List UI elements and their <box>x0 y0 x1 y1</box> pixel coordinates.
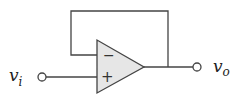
noninverting-input-symbol: + <box>101 68 114 86</box>
inverting-input-symbol: − <box>103 47 115 63</box>
input-label: vi <box>9 65 23 89</box>
output-terminal <box>193 63 201 71</box>
output-label: vo <box>213 56 230 79</box>
input-terminal <box>38 73 46 81</box>
opamp-circuit-diagram: − + vi vo <box>0 0 247 107</box>
